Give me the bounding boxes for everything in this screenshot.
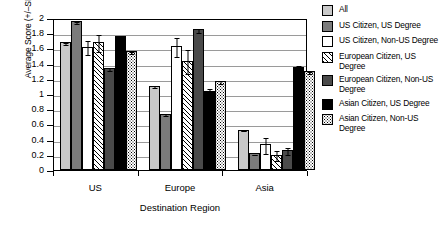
y-axis-tick-label: 0 <box>6 166 44 175</box>
bar <box>293 67 304 170</box>
legend-swatch-diagonal-hatch <box>322 52 333 63</box>
legend-item[interactable]: Asian Citizen, Non-US Degree <box>322 113 442 133</box>
legend-swatch-light-gray <box>322 5 333 16</box>
y-axis-tick-label: 1.8 <box>6 29 44 38</box>
bar-column <box>249 20 260 170</box>
bar <box>238 130 249 170</box>
y-axis-tick-label: 2 <box>6 14 44 23</box>
error-bar <box>87 41 88 56</box>
y-axis-tick-label: 1 <box>6 90 44 99</box>
bar <box>115 36 126 170</box>
x-axis-tick <box>307 171 308 176</box>
legend-label: European Citizen, US Degree <box>339 51 442 71</box>
error-bar <box>98 35 99 53</box>
bar <box>160 114 171 170</box>
bar-column <box>282 20 293 170</box>
legend-swatch-medium-gray <box>322 21 333 32</box>
bar-column <box>260 20 271 170</box>
x-axis-tick-label-us: US <box>53 182 138 193</box>
error-bar <box>309 72 310 75</box>
bar-group-europe <box>143 20 232 170</box>
y-axis-tick-label: 0.8 <box>6 105 44 114</box>
bar-group-asia <box>232 20 321 170</box>
bar-column <box>204 20 215 170</box>
bar-column <box>82 20 93 170</box>
error-bar <box>109 68 110 73</box>
legend: AllUS Citizen, US DegreeUS Citizen, Non-… <box>322 4 442 137</box>
bar-column <box>293 20 304 170</box>
bar <box>126 51 137 170</box>
legend-label: All <box>339 4 348 14</box>
bar <box>71 21 82 170</box>
legend-swatch-dotted <box>322 114 333 125</box>
error-bar <box>131 52 132 55</box>
bar <box>93 42 104 170</box>
bar <box>304 71 315 170</box>
legend-label: US Citizen, Non-US Degree <box>339 35 438 45</box>
bar-column <box>182 20 193 170</box>
legend-label: Asian Citizen, Non-US Degree <box>339 113 442 133</box>
error-bar <box>287 148 288 156</box>
error-bar <box>154 86 155 89</box>
legend-swatch-white <box>322 36 333 47</box>
legend-item[interactable]: US Citizen, Non-US Degree <box>322 35 442 47</box>
bar-group-us <box>54 20 143 170</box>
error-bar <box>276 151 277 162</box>
legend-item[interactable]: US Citizen, US Degree <box>322 20 442 32</box>
bar-column <box>238 20 249 170</box>
bar-column <box>71 20 82 170</box>
legend-item[interactable]: European Citizen, US Degree <box>322 51 442 71</box>
bar-column <box>271 20 282 170</box>
error-bar <box>298 66 299 72</box>
bar <box>149 86 160 170</box>
y-axis-tick-label: 1.4 <box>6 60 44 69</box>
chart-figure: Average Score (+/–SEM) 21.81.61.41.210.8… <box>0 0 444 225</box>
error-bar <box>176 38 177 58</box>
bar-column <box>304 20 315 170</box>
legend-label: European Citizen, Non-US Degree <box>339 74 442 94</box>
bar <box>204 91 215 170</box>
x-axis-title: Destination Region <box>53 202 307 213</box>
legend-label: US Citizen, US Degree <box>339 20 421 30</box>
error-bar <box>165 114 166 117</box>
bar-column <box>149 20 160 170</box>
bar-column <box>104 20 115 170</box>
bar-column <box>171 20 182 170</box>
bar-groups <box>54 20 306 170</box>
bar-column <box>193 20 204 170</box>
bar-column <box>93 20 104 170</box>
error-bar <box>243 131 244 133</box>
y-axis-tick-label: 0.4 <box>6 136 44 145</box>
legend-label: Asian Citizen, US Degree <box>339 98 429 108</box>
legend-item[interactable]: Asian Citizen, US Degree <box>322 98 442 110</box>
x-axis-tick <box>222 171 223 176</box>
error-bar <box>198 29 199 34</box>
legend-item[interactable]: All <box>322 4 442 16</box>
bar <box>182 61 193 170</box>
bar <box>193 29 204 170</box>
y-axis-tick-label: 0.6 <box>6 120 44 129</box>
legend-swatch-black <box>322 99 333 110</box>
x-axis-tick <box>53 171 54 176</box>
bar-column <box>160 20 171 170</box>
legend-item[interactable]: European Citizen, Non-US Degree <box>322 74 442 94</box>
error-bar <box>254 155 255 157</box>
legend-swatch-dark-gray <box>322 75 333 86</box>
bar <box>215 81 226 170</box>
y-axis-tick-label: 1.2 <box>6 75 44 84</box>
bar <box>171 46 182 170</box>
error-bar <box>65 43 66 46</box>
bar-column <box>115 20 126 170</box>
error-bar <box>120 36 121 41</box>
bar-column <box>126 20 137 170</box>
bar <box>82 47 93 170</box>
error-bar <box>220 81 221 86</box>
bar <box>60 42 71 170</box>
x-axis-tick-label-asia: Asia <box>222 182 307 193</box>
bar-column <box>215 20 226 170</box>
bar <box>104 68 115 170</box>
error-bar <box>76 22 77 25</box>
x-axis-tick <box>138 171 139 176</box>
y-axis-tick-label: 1.6 <box>6 44 44 53</box>
y-axis-tick-label: 0.2 <box>6 151 44 160</box>
